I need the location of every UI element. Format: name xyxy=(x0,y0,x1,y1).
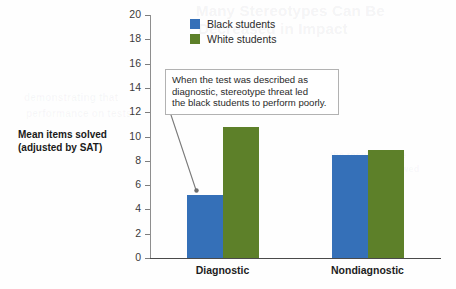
y-axis-tick: 16 xyxy=(0,64,150,65)
plot-area xyxy=(150,15,440,258)
annotation-line-1: When the test was described as xyxy=(172,74,332,86)
y-axis-tick-label: 14 xyxy=(111,81,141,93)
x-axis-category-label: Nondiagnostic xyxy=(308,264,428,276)
bar-diagnostic-black-students xyxy=(187,195,223,258)
y-axis-tick: 20 xyxy=(0,15,150,16)
y-axis-tick: 8 xyxy=(0,161,150,162)
y-axis-title-line2: (adjusted by SAT) xyxy=(18,141,144,154)
y-axis-tick-label: 18 xyxy=(111,32,141,44)
legend-swatch-white-students xyxy=(190,34,200,44)
y-axis-tick-label: 4 xyxy=(111,202,141,214)
bar-diagnostic-white-students xyxy=(223,127,259,258)
chart-figure: Many Stereotypes Can Be Decreased in Imp… xyxy=(0,0,456,289)
legend-label-black-students: Black students xyxy=(207,18,275,30)
y-axis-tick: 4 xyxy=(0,209,150,210)
annotation-line-2: diagnostic, stereotype threat led xyxy=(172,86,332,98)
bar-nondiagnostic-white-students xyxy=(368,150,404,258)
y-axis-tick: 10 xyxy=(0,137,150,138)
legend-item: Black students xyxy=(190,18,276,30)
y-axis-tick-label: 16 xyxy=(111,57,141,69)
y-axis-tick-mark xyxy=(145,258,150,259)
y-axis-tick-label: 2 xyxy=(111,227,141,239)
y-axis-tick: 6 xyxy=(0,185,150,186)
page-showthrough-text: demonstrating that xyxy=(24,92,118,103)
y-axis-tick: 0 xyxy=(0,258,150,259)
legend: Black students White students xyxy=(190,18,276,48)
legend-label-white-students: White students xyxy=(207,33,276,45)
y-axis-tick-label: 0 xyxy=(111,251,141,263)
legend-swatch-black-students xyxy=(190,19,200,29)
legend-item: White students xyxy=(190,33,276,45)
y-axis-tick-label: 20 xyxy=(111,8,141,20)
y-axis-tick-label: 6 xyxy=(111,178,141,190)
annotation-line-3: the black students to perform poorly. xyxy=(172,97,332,109)
x-axis-line xyxy=(150,258,441,259)
y-axis-tick-label: 12 xyxy=(111,105,141,117)
annotation-callout: When the test was described as diagnosti… xyxy=(165,69,339,115)
y-axis-tick-label: 10 xyxy=(111,130,141,142)
x-axis-category-label: Diagnostic xyxy=(163,264,283,276)
bar-nondiagnostic-black-students xyxy=(332,155,368,258)
y-axis-tick: 18 xyxy=(0,39,150,40)
y-axis-tick: 14 xyxy=(0,88,150,89)
y-axis-tick: 2 xyxy=(0,234,150,235)
y-axis-tick: 12 xyxy=(0,112,150,113)
y-axis-tick-label: 8 xyxy=(111,154,141,166)
